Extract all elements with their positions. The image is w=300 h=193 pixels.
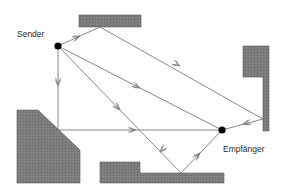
receiver-label: Empfänger — [223, 144, 265, 154]
left-wall — [17, 110, 80, 183]
receiver-node — [218, 126, 225, 133]
top-wall — [79, 15, 141, 27]
sender-label: Sender — [17, 29, 44, 39]
right-wall — [243, 46, 269, 131]
arrowhead-icon — [158, 145, 167, 154]
ray-top-right-reflection — [58, 27, 263, 130]
multipath-diagram — [0, 0, 300, 193]
arrowhead-icon — [172, 60, 181, 68]
sender-node — [54, 42, 61, 49]
arrow-markers — [56, 34, 252, 161]
bottom-wall — [100, 162, 224, 183]
obstacles — [17, 15, 269, 183]
